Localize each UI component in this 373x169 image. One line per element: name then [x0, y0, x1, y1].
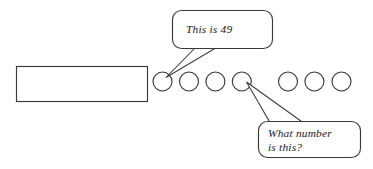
speech-bubble-this-is-49[interactable]: This is 49 — [166, 11, 273, 78]
circle-6[interactable] — [305, 72, 324, 91]
worksheet-diagram-canvas: This is 49 What number is this? — [0, 0, 373, 169]
speech-bubble-text-1: This is 49 — [186, 23, 232, 35]
number-line-diagram: This is 49 What number is this? — [0, 0, 373, 169]
speech-bubble-text-2-line-1: What number — [268, 127, 332, 139]
circle-7[interactable] — [332, 72, 351, 91]
circle-2[interactable] — [180, 72, 199, 91]
circle-4[interactable] — [232, 72, 251, 91]
circle-3[interactable] — [206, 72, 225, 91]
speech-bubble-text-2-line-2: is this? — [268, 141, 302, 153]
bar-rectangle — [17, 67, 148, 102]
circle-5[interactable] — [279, 72, 298, 91]
speech-bubble-what-number-is-this[interactable]: What number is this? — [247, 82, 361, 158]
